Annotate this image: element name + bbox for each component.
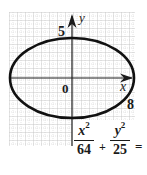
y-axis-label: y xyxy=(79,11,85,24)
y-intercept-label: 5 xyxy=(58,25,65,39)
denominator-25: 25 xyxy=(113,143,127,157)
fraction-bar xyxy=(110,140,130,141)
denominator-64: 64 xyxy=(77,143,91,157)
x-intercept-label: 8 xyxy=(127,98,134,112)
x-axis-label: x xyxy=(120,80,126,94)
fraction-y-term: y2 25 xyxy=(110,124,130,157)
fraction-x-term: x2 64 xyxy=(74,124,94,157)
numerator-x: x2 xyxy=(78,124,90,138)
origin-label: 0 xyxy=(62,82,69,95)
numerator-y: y2 xyxy=(115,124,126,138)
fraction-bar xyxy=(74,140,94,141)
ellipse-figure: 5 y 0 x 8 x2 64 + y2 25 = xyxy=(0,0,147,175)
plus-operator: + xyxy=(99,141,106,153)
equals-sign: = xyxy=(135,140,142,153)
